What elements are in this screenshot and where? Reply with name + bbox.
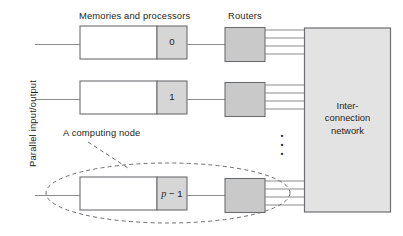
router-node-p-1 (225, 179, 265, 213)
callout-leader-line (88, 142, 128, 168)
memory-box-node-p-1 (80, 177, 157, 210)
network-label-line-2: connection (325, 112, 370, 123)
router-node-1 (225, 83, 265, 117)
network-label-line-3: network (331, 125, 364, 136)
vertical-ellipsis-icon: · · · (278, 132, 286, 159)
network-label-line-1: Inter- (337, 100, 359, 111)
label-memories-and-processors: Memories and processors (79, 11, 190, 22)
label-interconnection-network: Inter- connection network (306, 100, 389, 137)
figure-parallel-computer-architecture: Memories and processors Routers Parallel… (0, 0, 403, 236)
node-index-0: 0 (157, 37, 187, 48)
label-routers: Routers (228, 11, 262, 22)
ellipsis-dot-3: · (278, 150, 286, 159)
node-index-1: 1 (157, 92, 187, 103)
node-index-p-1: p − 1 (150, 188, 194, 200)
memory-box-node-0 (80, 26, 157, 59)
label-a-computing-node: A computing node (63, 128, 140, 139)
router-node-0 (225, 28, 265, 62)
label-parallel-input-output: Parallel input/output (28, 80, 39, 167)
memory-box-node-1 (80, 81, 157, 114)
